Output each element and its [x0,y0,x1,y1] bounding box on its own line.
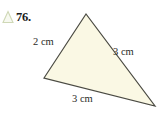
side-label-base: 3 cm [72,93,93,105]
geometry-figure: 76. 2 cm 3 cm 3 cm [0,0,162,114]
exercise-header: 76. [2,8,31,26]
side-label-right: 3 cm [113,46,134,58]
triangle-icon [2,10,14,24]
exercise-number: 76. [16,10,31,24]
triangle-shape [44,14,155,106]
side-label-left: 2 cm [33,36,54,48]
